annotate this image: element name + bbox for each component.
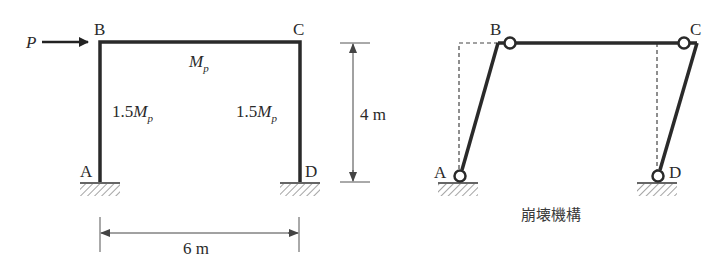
mech-node-label-B: B: [490, 20, 501, 39]
deformed-column-right: [660, 43, 697, 170]
frame-diagram: P B C A D Mp 1.5Mp 1.5Mp 4 m: [0, 0, 726, 275]
plastic-hinge-C-icon: [679, 38, 690, 49]
portal-frame: P B C A D Mp 1.5Mp 1.5Mp 4 m: [25, 20, 386, 258]
plastic-hinge-B-icon: [505, 38, 516, 49]
node-label-C: C: [293, 20, 304, 39]
node-label-A: A: [80, 162, 93, 181]
span-dimension: 6 m: [100, 217, 299, 258]
beam-moment-label: Mp: [188, 52, 209, 74]
ground-D-icon: [637, 183, 677, 196]
plastic-hinge-A-icon: [455, 171, 466, 182]
height-dimension-label: 4 m: [360, 105, 386, 124]
node-label-B: B: [94, 20, 105, 39]
right-column-moment-label: 1.5Mp: [236, 102, 277, 124]
collapse-mechanism: B C A D 崩壊機構: [434, 20, 701, 224]
mech-node-label-C: C: [690, 20, 701, 39]
plastic-hinge-D-icon: [653, 171, 664, 182]
mech-node-label-D: D: [669, 163, 681, 182]
fixed-support-A-icon: [80, 183, 120, 196]
height-dimension: 4 m: [340, 43, 386, 182]
load-label: P: [25, 33, 36, 52]
mechanism-caption: 崩壊機構: [521, 206, 581, 224]
ground-A-icon: [438, 183, 478, 196]
span-dimension-label: 6 m: [183, 239, 209, 258]
mech-node-label-A: A: [434, 163, 447, 182]
deformed-column-left: [462, 43, 498, 170]
fixed-support-D-icon: [280, 183, 320, 196]
node-label-D: D: [305, 162, 317, 181]
left-column-moment-label: 1.5Mp: [112, 102, 153, 124]
